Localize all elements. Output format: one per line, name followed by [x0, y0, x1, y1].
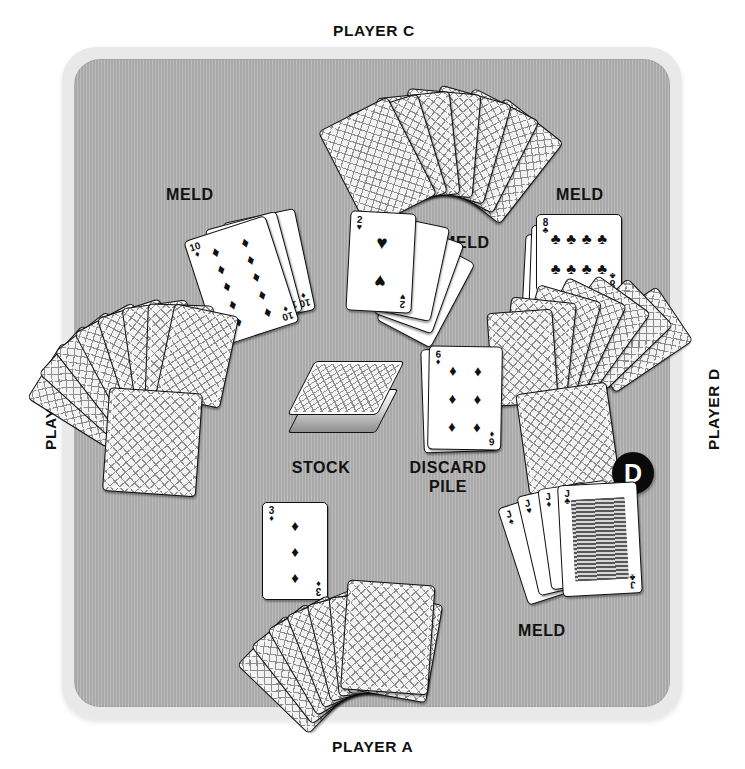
discard-label: DISCARD PILE [396, 458, 500, 496]
card-back [515, 382, 620, 496]
diagram-stage: PLAYER C PLAYER A PLAYER B PLAYER D MELD… [0, 0, 745, 769]
meld-card-top: 2♥ 2♥ ♥♥ [345, 210, 416, 313]
discard-label-line2: PILE [429, 478, 467, 495]
meld-card-top: J♣ J♣ [557, 481, 643, 597]
card-back [102, 387, 203, 497]
discard-label-line1: DISCARD [409, 459, 486, 476]
player-label-a: PLAYER A [332, 738, 413, 756]
meld-label-right: MELD [556, 186, 604, 204]
player-label-c: PLAYER C [333, 22, 415, 40]
player-label-d: PLAYER D [705, 368, 723, 450]
discard-card-top: 6♦ 6♦ ♦♦ ♦♦ ♦♦ [427, 345, 503, 450]
meld-label-left: MELD [166, 186, 214, 204]
table-card-three-of-diamonds[interactable]: 3♦ 3♦ ♦♦♦ [262, 502, 328, 600]
meld-card-top: 8♣ 8♣ ♣♣♣♣ ♣♣♣♣ [536, 214, 622, 292]
jack-court-art [571, 497, 629, 582]
stock-label: STOCK [276, 458, 366, 477]
stock-pile[interactable] [293, 355, 396, 443]
card-back [340, 579, 435, 695]
meld-label-bottom-right: MELD [518, 622, 566, 640]
